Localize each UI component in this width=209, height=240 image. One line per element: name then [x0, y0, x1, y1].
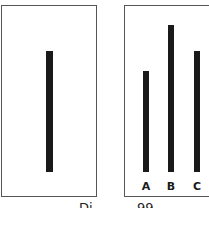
caption-part1: Di: [79, 201, 93, 208]
reference-line: [46, 51, 53, 172]
comparison-line-c: [194, 51, 200, 172]
label-c: C: [191, 181, 203, 193]
label-b: B: [165, 181, 177, 193]
comparison-line-a: [143, 71, 149, 172]
comparison-line-b: [168, 25, 174, 172]
caption-part2: 99: [137, 201, 154, 208]
label-a: A: [140, 181, 152, 193]
